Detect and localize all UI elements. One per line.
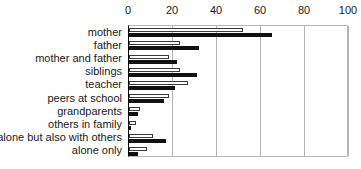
x-axis-tick-labels: 020406080100 [0,3,361,19]
category-label: mother and father [35,52,122,64]
y-axis-category-labels: motherfathermother and fathersiblingstea… [0,25,125,157]
x-tick-label: 20 [166,3,178,17]
bar-series-filled [129,73,197,77]
bar-series-filled [129,126,131,130]
category-label: alone but also with others [0,131,122,143]
bar-series-open [129,121,136,125]
gridline [348,26,349,156]
x-tick-label: 40 [210,3,222,17]
bar-series-filled [129,112,138,116]
category-label: peers at school [47,92,122,104]
category-label: mother [88,26,122,38]
category-label: teacher [85,78,122,90]
bar-series-open [129,28,243,32]
bar-series-filled [129,99,164,103]
category-label: alone only [72,144,122,156]
category-label: father [94,39,122,51]
gridline [304,26,305,156]
bar-series-filled [129,139,166,143]
bar-chart: 020406080100 motherfathermother and fath… [0,0,361,169]
bar-series-filled [129,152,138,156]
bar-series-open [129,94,169,98]
bar-series-filled [129,60,177,64]
x-tick-label: 60 [254,3,266,17]
gridline [260,26,261,156]
bar-series-filled [129,33,272,37]
gridline [216,26,217,156]
category-label: others in family [48,118,122,130]
x-tick-label: 0 [125,3,131,17]
category-label: siblings [85,65,122,77]
bar-series-open [129,81,188,85]
x-tick-label: 100 [339,3,357,17]
bar-series-open [129,147,147,151]
bar-series-open [129,107,140,111]
bar-series-open [129,55,169,59]
bar-series-open [129,68,180,72]
bar-series-open [129,134,153,138]
bar-series-open [129,41,180,45]
x-tick-label: 80 [298,3,310,17]
category-label: grandparents [57,105,122,117]
bar-series-filled [129,46,199,50]
bar-series-filled [129,86,175,90]
plot-area [128,25,348,157]
